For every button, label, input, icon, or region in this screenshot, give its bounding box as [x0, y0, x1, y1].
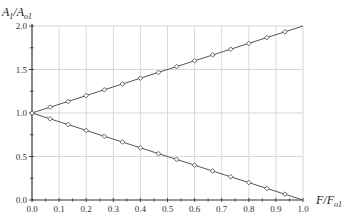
diamond-marker-icon [228, 174, 233, 179]
x-tick-label: 0.7 [216, 204, 228, 214]
diamond-marker-icon [30, 111, 35, 116]
y-tick-label: 0.0 [16, 195, 28, 205]
diamond-marker-icon [174, 64, 179, 69]
diamond-marker-icon [174, 157, 179, 162]
x-tick-label: 0.6 [189, 204, 201, 214]
line-chart: 0.00.10.20.30.40.50.60.70.80.91.0 0.00.5… [0, 0, 358, 224]
diamond-marker-icon [120, 82, 125, 87]
diamond-marker-icon [265, 35, 270, 40]
x-tick-label: 0.1 [53, 204, 64, 214]
diamond-marker-icon [138, 146, 143, 151]
diamond-marker-icon [228, 47, 233, 52]
y-axis-title: A1/Ao1 [1, 5, 32, 21]
y-tick-labels: 0.00.51.01.52.0 [16, 21, 28, 205]
diamond-marker-icon [247, 180, 252, 185]
diamond-marker-icon [66, 122, 71, 127]
x-tick-labels: 0.00.10.20.30.40.50.60.70.80.91.0 [26, 204, 309, 214]
x-tick-label: 0.0 [26, 204, 38, 214]
diamond-marker-icon [156, 70, 161, 75]
diamond-marker-icon [247, 41, 252, 46]
grid-lines [32, 26, 303, 200]
diamond-marker-icon [265, 186, 270, 191]
diamond-marker-icon [156, 151, 161, 156]
diamond-marker-icon [210, 169, 215, 174]
x-tick-label: 1.0 [297, 204, 309, 214]
x-tick-label: 0.5 [162, 204, 174, 214]
y-tick-label: 1.0 [16, 108, 28, 118]
diamond-marker-icon [120, 140, 125, 145]
diamond-marker-icon [84, 128, 89, 133]
x-axis-title: F/Fo1 [315, 193, 342, 209]
diamond-marker-icon [210, 53, 215, 58]
x-tick-label: 0.9 [270, 204, 282, 214]
diamond-marker-icon [84, 93, 89, 98]
diamond-marker-icon [138, 76, 143, 81]
diamond-marker-icon [48, 105, 53, 110]
diamond-marker-icon [192, 163, 197, 168]
diamond-marker-icon [102, 134, 107, 139]
diamond-marker-icon [102, 87, 107, 92]
diamond-marker-icon [283, 30, 288, 35]
y-tick-label: 0.5 [16, 152, 28, 162]
x-tick-label: 0.8 [243, 204, 255, 214]
x-tick-label: 0.4 [135, 204, 147, 214]
diamond-marker-icon [66, 99, 71, 104]
x-tick-label: 0.2 [81, 204, 92, 214]
y-tick-label: 1.5 [16, 65, 28, 75]
x-tick-label: 0.3 [108, 204, 120, 214]
diamond-marker-icon [192, 59, 197, 64]
diamond-marker-icon [48, 117, 53, 122]
tick-marks [29, 26, 303, 202]
diamond-marker-icon [283, 192, 288, 197]
y-tick-label: 2.0 [16, 21, 28, 31]
